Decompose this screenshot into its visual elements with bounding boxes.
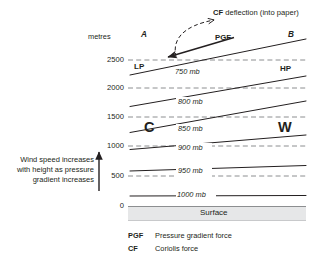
legend-value-pgf: Pressure gradient force [155, 232, 232, 241]
surface-label: Surface [200, 208, 228, 217]
cold-air-label: C [144, 119, 154, 136]
isobar-label-850: 850 mb [178, 125, 203, 134]
cf-deflection-arrow [175, 20, 214, 57]
y-tick-2000: 2000 [96, 84, 124, 93]
isobar-label-masks [173, 67, 216, 201]
isobar-label-950: 950 mb [178, 167, 203, 176]
warm-air-label: W [278, 119, 292, 136]
cf-abbrev: CF [213, 8, 223, 17]
diagram-canvas [0, 0, 319, 266]
isobar-label-1000: 1000 mb [177, 191, 206, 200]
y-tick-1500: 1500 [96, 113, 124, 122]
isobar-lines [130, 39, 306, 196]
y-tick-2500: 2500 [96, 56, 124, 65]
isobar-label-900: 900 mb [178, 144, 203, 153]
isobar-950 [130, 166, 306, 172]
legend-value-cf: Coriolis force [155, 245, 198, 254]
y-axis-title: metres [88, 33, 111, 42]
y-tick-0: 0 [96, 202, 124, 211]
isobar-label-800: 800 mb [178, 98, 203, 107]
cf-annotation-text: deflection (into paper) [223, 8, 299, 17]
column-label-b: B [288, 30, 294, 40]
low-pressure-label: LP [134, 62, 144, 71]
y-tick-500: 500 [96, 172, 124, 181]
isobar-800 [130, 76, 306, 107]
legend-key-cf: CF [128, 245, 138, 254]
y-tick-1000: 1000 [96, 142, 124, 151]
isobar-label-750: 750 mb [175, 68, 200, 77]
high-pressure-label: HP [280, 64, 291, 73]
legend-key-pgf: PGF [128, 232, 143, 241]
column-label-a: A [141, 30, 147, 40]
pgf-annotation: PGF [215, 33, 231, 42]
cf-deflection-annotation: CF deflection (into paper) [213, 9, 299, 18]
isobar-1000 [130, 196, 306, 197]
height-gridlines [128, 60, 306, 176]
wind-pressure-gradient-diagram: metres 2500 2000 1500 1000 500 0 A B LP … [0, 0, 319, 266]
wind-speed-caption: Wind speed increases with height as pres… [8, 155, 94, 185]
isobar-900 [130, 135, 306, 150]
